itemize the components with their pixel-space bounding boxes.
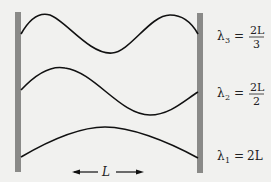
arrow-right-icon	[136, 170, 144, 175]
svg-text:2L: 2L	[250, 24, 265, 37]
wave-mode-3	[21, 14, 198, 53]
length-indicator: L	[72, 165, 144, 179]
standing-wave-diagram: L λ 3 = 2L 3 λ 2 = 2L 2 λ 1 = 2L	[0, 0, 271, 182]
arrow-left-icon	[72, 170, 80, 175]
svg-text:=: =	[234, 29, 244, 43]
svg-text:λ: λ	[217, 86, 225, 100]
svg-text:λ: λ	[217, 29, 225, 43]
svg-text:2L: 2L	[250, 81, 265, 94]
label-mode-2: λ 2 = 2L 2	[217, 81, 265, 108]
svg-text:3: 3	[225, 36, 230, 45]
svg-text:=: =	[234, 86, 244, 100]
svg-text:1: 1	[225, 156, 230, 165]
svg-text:=: =	[234, 149, 244, 163]
svg-text:2: 2	[225, 93, 230, 102]
svg-text:λ: λ	[217, 149, 225, 163]
svg-text:2L: 2L	[247, 149, 263, 163]
wave-mode-1	[21, 127, 198, 158]
svg-text:3: 3	[253, 38, 260, 51]
svg-text:2: 2	[253, 95, 260, 108]
label-mode-1: λ 1 = 2L	[217, 149, 263, 165]
left-wall	[15, 12, 21, 172]
length-label: L	[101, 165, 110, 179]
label-mode-3: λ 3 = 2L 3	[217, 24, 265, 51]
wave-mode-2	[21, 67, 198, 115]
